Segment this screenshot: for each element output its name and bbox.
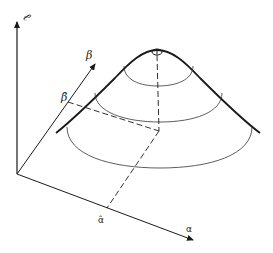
contour-ellipse-bottom	[67, 127, 252, 168]
beta-axis	[17, 64, 95, 174]
vertical-axis-label: ℓ	[20, 10, 33, 23]
alpha-hat-label: α̂	[98, 215, 104, 225]
contour-ellipse-top	[124, 66, 193, 86]
beta-axis-label: β	[85, 49, 92, 62]
projection-line-alpha	[107, 131, 159, 208]
beta-hat-label: β̂	[60, 91, 67, 104]
projection-line-vertical	[157, 55, 159, 131]
contour-ellipse-middle	[95, 93, 222, 122]
alpha-axis	[17, 174, 193, 240]
projection-line-beta	[68, 102, 159, 131]
alpha-axis-label: α	[186, 224, 192, 234]
likelihood-surface-diagram: ℓ β β̂ α α̂	[0, 0, 273, 253]
